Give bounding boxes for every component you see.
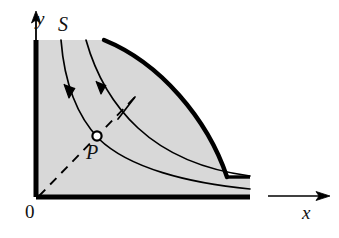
phase-portrait-figure: y S P x 0 — [0, 0, 339, 238]
y-axis-label: y — [36, 9, 44, 28]
diagram-canvas — [0, 0, 339, 238]
point-label-P: P — [86, 142, 98, 162]
x-direction-arrow — [268, 192, 330, 201]
region-label-S: S — [58, 14, 68, 34]
x-axis-label: x — [302, 203, 310, 222]
point-P-marker — [92, 131, 101, 140]
origin-label: 0 — [25, 202, 35, 221]
point-P-circle — [92, 131, 101, 140]
